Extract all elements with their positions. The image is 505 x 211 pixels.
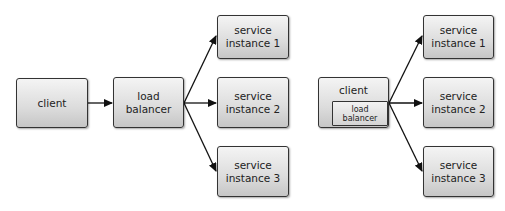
arrow-client-lb-to-service-3: [389, 103, 422, 171]
right-service-instance-2-box: service instance 2: [423, 77, 494, 128]
right-service-instance-3-label: service instance 3: [431, 159, 486, 185]
right-client-box: client load balancer: [318, 77, 389, 128]
right-embedded-load-balancer-label: load balancer: [343, 105, 378, 123]
right-service-instance-2-label: service instance 2: [431, 90, 486, 116]
right-service-instance-1-box: service instance 1: [423, 15, 494, 59]
right-client-label: client: [319, 84, 388, 97]
right-service-instance-1-label: service instance 1: [431, 24, 486, 50]
left-client-box: client: [16, 78, 88, 128]
left-service-instance-3-label: service instance 3: [226, 159, 281, 185]
arrow-lb-to-service-1: [184, 36, 216, 103]
left-service-instance-1-box: service instance 1: [217, 15, 289, 59]
left-client-label: client: [38, 97, 67, 110]
left-service-instance-1-label: service instance 1: [226, 24, 281, 50]
left-service-instance-2-label: service instance 2: [226, 90, 281, 116]
right-service-instance-3-box: service instance 3: [423, 146, 494, 197]
left-service-instance-2-box: service instance 2: [217, 77, 289, 128]
left-load-balancer-box: load balancer: [113, 77, 184, 128]
arrow-client-lb-to-service-1: [389, 36, 422, 103]
right-embedded-load-balancer-box: load balancer: [332, 101, 388, 126]
left-load-balancer-label: load balancer: [126, 90, 172, 116]
arrow-lb-to-service-3: [184, 103, 216, 171]
left-service-instance-3-box: service instance 3: [217, 146, 289, 197]
